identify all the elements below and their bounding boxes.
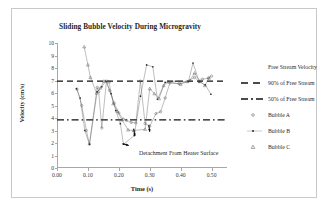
x-tick-mark [181,168,182,171]
marker-bubble-b [192,62,194,64]
x-tick-label: 0.50 [207,172,217,178]
x-tick-mark [212,168,213,171]
x-tick-label: 0.10 [83,172,93,178]
marker-bubble-b [152,66,154,68]
x-tick-mark [88,168,89,171]
legend-label: Bubble C [266,144,290,150]
x-tick-label: 0.20 [114,172,124,178]
marker-bubble-b [146,64,148,66]
legend-marker-dash-dot-line-icon [240,93,266,105]
legend-item[interactable]: Bubble C [240,139,328,155]
x-tick-label: 0.40 [176,172,186,178]
y-tick-label: 10 [48,40,54,46]
x-axis-label: Time (s) [57,185,227,192]
chart-figure: Sliding Bubble Velocity During Micrograv… [11,8,317,198]
x-tick-mark [119,168,120,171]
marker-bubble-b [76,88,78,90]
marker-bubble-b [175,80,177,82]
marker-bubble-b [164,82,166,84]
legend-item[interactable]: Bubble A [240,107,328,123]
series-line-bubble-b [76,63,210,144]
legend-item[interactable]: 50% of Free Stream [240,91,328,107]
legend-title-row: Free Stream Velocity [240,59,328,75]
x-tick-label: 0.00 [52,172,62,178]
legend-marker-open-circle-icon [240,109,266,121]
marker-bubble-b [140,95,142,97]
legend-marker-filled-dot-icon [240,125,266,137]
marker-bubble-b [89,143,91,145]
detachment-annotation: Detachment From Heater Surface [139,150,218,156]
legend-items: 90% of Free Stream50% of Free StreamBubb… [240,75,328,155]
legend-item[interactable]: Bubble B [240,123,328,139]
legend-marker-dashed-line-icon [240,77,266,89]
legend-marker-open-triangle-icon [240,141,266,153]
x-tick-label: 0.30 [145,172,155,178]
chart-title: Sliding Bubble Velocity During Micrograv… [12,22,248,31]
x-tick-mark [150,168,151,171]
x-tick-mark [57,168,58,171]
marker-bubble-b [120,123,122,125]
legend-item[interactable]: 90% of Free Stream [240,75,328,91]
marker-bubble-b [79,97,81,99]
legend-label: 90% of Free Stream [266,80,315,86]
legend-title-spacer [240,61,266,73]
legend-title: Free Stream Velocity [266,64,317,70]
legend-label: Bubble B [266,128,290,134]
chart-legend: Free Stream Velocity 90% of Free Stream5… [240,59,328,155]
marker-bubble-b [210,93,212,95]
marker-bubble-b [84,130,86,132]
legend-label: Bubble A [266,112,290,118]
y-axis-label: Velocity (cm/s) [18,58,25,148]
legend-label: 50% of Free Stream [266,96,315,102]
